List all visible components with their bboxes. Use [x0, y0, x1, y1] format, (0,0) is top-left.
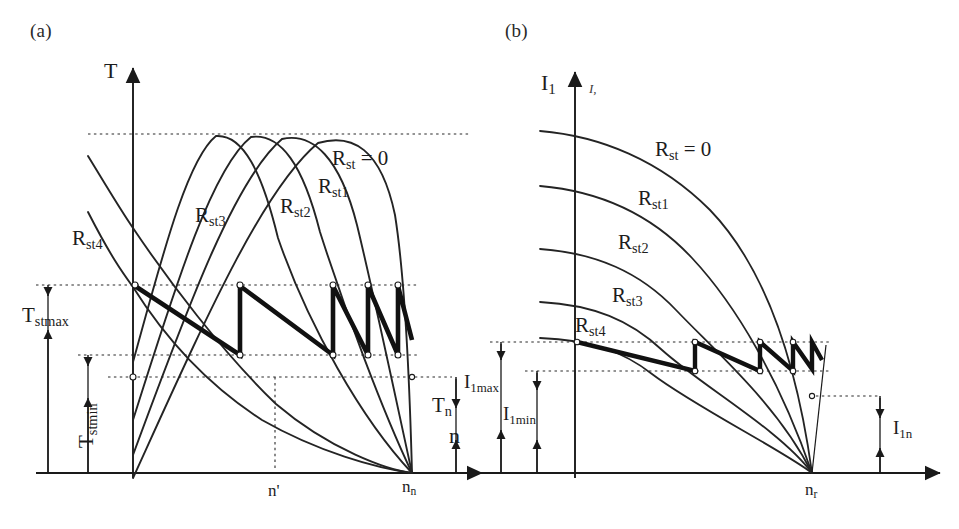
- panel-tag-a: (a): [30, 20, 52, 42]
- figure-canvas: [0, 0, 959, 529]
- curve-b-rst4: [540, 338, 812, 473]
- curve-label-b-rst1: Rst1: [638, 188, 669, 211]
- measure-label-i1n: I1n: [893, 418, 912, 441]
- measure-label-i1min: I1min: [503, 404, 536, 427]
- curve-b-rst0: [540, 131, 812, 473]
- panel-tag-b: (b): [505, 20, 528, 42]
- panel-b-dim-stems: [501, 344, 880, 473]
- curve-label-b-rst0: Rst = 0: [655, 139, 711, 162]
- tick-label-nprime: n': [268, 482, 280, 499]
- curve-label-a-rst0: Rst = 0: [332, 148, 388, 171]
- tick-label-nr: nr: [805, 481, 817, 501]
- measure-label-tstmin: Tstmin: [76, 403, 99, 448]
- measure-label-i1max: I1max: [464, 372, 499, 395]
- curve-label-b-rst3: Rst3: [612, 285, 643, 308]
- curve-label-a-rst2: Rst2: [280, 196, 311, 219]
- panel-a-torque-curves: [88, 136, 412, 478]
- panel-b-dimension-arrows: [501, 342, 880, 473]
- curve-label-b-rst4: Rst4: [575, 315, 606, 338]
- measure-label-tn: Tn: [432, 395, 452, 418]
- panel-b-y-axis-label: I1: [541, 72, 556, 97]
- panel-a-y-axis-label: T: [104, 60, 117, 82]
- curve-label-a-rst4: Rst4: [72, 228, 103, 251]
- panel-a-graph: [36, 68, 482, 478]
- panel-b-y-axis-ghost-label: I,: [589, 82, 597, 95]
- tick-label-nn: nn: [402, 478, 416, 498]
- panel-a-x-axis-label: n: [449, 425, 460, 447]
- curve-label-a-rst3: Rst3: [195, 205, 226, 228]
- panel-b-graph: [482, 72, 940, 478]
- measure-label-tstmax: Tstmax: [22, 305, 69, 328]
- curve-label-a-rst1: Rst1: [318, 176, 349, 199]
- curve-a-rst4b: [88, 156, 412, 473]
- panel-b-current-curves: [540, 131, 812, 473]
- figure-container: (a) (b) T n Rst = 0 Rst1 Rst2 Rst3 Rst4 …: [0, 0, 959, 529]
- curve-label-b-rst2: Rst2: [618, 232, 649, 255]
